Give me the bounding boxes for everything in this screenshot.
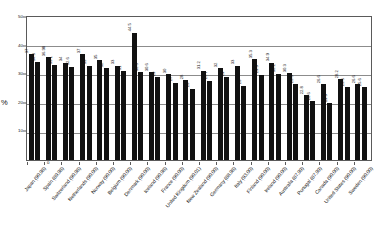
bar-value-label: 26.6 — [317, 75, 321, 83]
bar-group: 31.227.7 — [199, 17, 216, 160]
x-tick-mark — [130, 162, 131, 165]
bar-value-label: 30.6 — [145, 64, 149, 72]
bar-value-label: 26 — [238, 80, 242, 85]
bar-value-label: 36.98 — [42, 46, 46, 56]
bar-value-label: 32 — [100, 63, 104, 68]
x-tick-mark — [216, 162, 217, 165]
bar-value-label: 25.6 — [358, 78, 362, 86]
bar — [218, 68, 223, 160]
bar — [149, 72, 154, 160]
bar — [138, 72, 143, 160]
bar-value-label: 37 — [76, 49, 80, 54]
bar — [224, 77, 229, 160]
y-tick-mark-30 — [23, 74, 26, 75]
bar-value-label: 32 — [214, 63, 218, 68]
bar — [293, 84, 298, 160]
bar-value-label: 35.3 — [248, 50, 252, 58]
bar-group: 22.820.6 — [302, 17, 319, 160]
x-tick-mark — [113, 162, 114, 165]
x-tick-mark — [79, 162, 80, 165]
bar-group: 30.629 — [147, 17, 164, 160]
bar-value-label: 31.2 — [197, 62, 201, 70]
bar-group: 36.9833.1 — [44, 17, 61, 160]
bar — [97, 60, 102, 160]
bar-group: 3326 — [233, 17, 250, 160]
y-axis: % 1020304050 — [0, 16, 26, 162]
bar — [183, 80, 188, 160]
bar-group: 2825 — [182, 17, 199, 160]
bar — [207, 81, 212, 160]
bar — [338, 79, 343, 160]
bar-value-label: 35 — [94, 54, 98, 59]
bar-value-label: 29 — [220, 71, 224, 76]
x-tick-mark — [147, 162, 148, 165]
bar-value-label: 25.6 — [341, 78, 345, 86]
bar-value-label: 33 — [231, 60, 235, 65]
bar-value-label: 33 — [111, 60, 115, 65]
x-tick-mark — [182, 162, 183, 165]
bar-value-label: 30.2 — [272, 65, 276, 73]
bar-value-label: 30 — [162, 69, 166, 74]
bar — [259, 75, 264, 161]
bar-group: 44.530.6 — [130, 17, 147, 160]
bar-group: 3027 — [165, 17, 182, 160]
y-tick-mark-50 — [23, 17, 26, 18]
x-tick-mark — [337, 162, 338, 165]
bar-value-label: 20.6 — [306, 92, 310, 100]
bar-group: 3331 — [113, 17, 130, 160]
bar-group: 34.930.2 — [268, 17, 285, 160]
bars-layer: 3734.336.9833.13432.637333532333144.530.… — [27, 17, 371, 160]
bar-value-label: 26.6 — [289, 75, 293, 83]
x-tick-mark — [285, 162, 286, 165]
bar — [201, 71, 206, 160]
bar — [166, 74, 171, 160]
bar — [69, 67, 74, 160]
x-tick-mark — [199, 162, 200, 165]
y-tick-mark-20 — [23, 102, 26, 103]
bar-group: 35.329.9 — [251, 17, 268, 160]
x-tick-mark — [44, 162, 45, 165]
x-tick-mark — [251, 162, 252, 165]
bar-group: 3532 — [96, 17, 113, 160]
bar-value-label: 33 — [83, 60, 87, 65]
x-tick-mark — [233, 162, 234, 165]
bar-group: 3734.3 — [27, 17, 44, 160]
bar — [104, 68, 109, 160]
bar-value-label: 28 — [180, 74, 184, 79]
bar-value-label: 34.9 — [266, 54, 270, 62]
y-tick-mark-10 — [23, 131, 26, 132]
bar-value-label: 37 — [25, 49, 29, 54]
x-axis: 0 Japan (90.98)Spain (89.98)Switzerland … — [27, 162, 371, 242]
bar — [155, 77, 160, 160]
bar — [252, 59, 257, 160]
bar-value-label: 33.1 — [48, 56, 52, 64]
bar-value-label: 27.7 — [203, 72, 207, 80]
bar-value-label: 29 — [152, 71, 156, 76]
bar-value-label: 19.9 — [324, 94, 328, 102]
x-tick-mark — [96, 162, 97, 165]
x-tick-mark — [27, 162, 28, 165]
bar — [355, 84, 360, 160]
bar-value-label: 28.2 — [334, 70, 338, 78]
bar-value-label: 34 — [59, 57, 63, 62]
bar-group: 3733 — [79, 17, 96, 160]
bar-group: 3229 — [216, 17, 233, 160]
bar — [132, 33, 137, 160]
bar-group: 3432.6 — [61, 17, 78, 160]
bar — [46, 57, 51, 160]
x-tick-mark — [268, 162, 269, 165]
x-tick-mark — [354, 162, 355, 165]
bar-chart: % 1020304050 3734.336.9833.13432.6373335… — [0, 0, 382, 242]
bar-value-label: 29.9 — [255, 66, 259, 74]
bar — [29, 54, 34, 160]
bar-group: 28.225.6 — [337, 17, 354, 160]
bar — [327, 103, 332, 160]
bar-value-label: 30.3 — [283, 64, 287, 72]
bar — [241, 86, 246, 160]
bar — [276, 74, 281, 160]
bar-value-label: 27 — [169, 77, 173, 82]
x-tick-mark — [165, 162, 166, 165]
bar — [287, 73, 292, 160]
bar — [269, 63, 274, 160]
bar-value-label: 25 — [186, 83, 190, 88]
